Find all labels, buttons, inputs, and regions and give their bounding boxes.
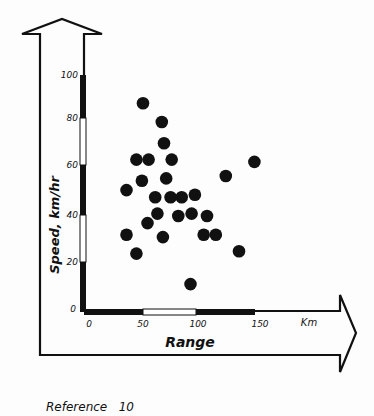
y-axis-bar — [80, 75, 86, 312]
chart-canvas: 100 80 60 40 20 0 0 50 100 150 Km Range … — [0, 0, 374, 416]
data-point — [160, 172, 173, 185]
y-tick-80: 80 — [67, 113, 79, 123]
data-point — [184, 278, 197, 291]
data-point — [142, 153, 155, 166]
y-tick-20: 20 — [67, 257, 79, 267]
y-tick-100: 100 — [61, 70, 78, 80]
data-point — [157, 231, 170, 244]
x-unit-label: Km — [301, 317, 318, 328]
scatter-chart: 100 80 60 40 20 0 0 50 100 150 Km Range … — [0, 0, 374, 416]
data-point — [164, 191, 177, 204]
data-point — [220, 170, 233, 183]
x-tick-0: 0 — [86, 319, 92, 329]
y-tick-0: 0 — [70, 304, 76, 314]
data-point — [120, 229, 133, 242]
data-point — [175, 191, 188, 204]
data-point — [197, 229, 210, 242]
x-tick-50: 50 — [137, 319, 149, 329]
x-axis-bar — [84, 309, 255, 315]
x-tick-100: 100 — [189, 319, 206, 329]
data-point — [248, 156, 261, 169]
data-point — [201, 210, 214, 223]
scatter-points — [120, 97, 260, 291]
data-point — [130, 247, 143, 260]
data-point — [149, 191, 162, 204]
y-tick-40: 40 — [67, 210, 79, 220]
data-point — [189, 189, 202, 202]
data-point — [141, 217, 154, 230]
data-point — [158, 137, 171, 150]
caption: Reference 10 — [46, 400, 134, 414]
data-point — [233, 245, 246, 258]
y-tick-labels: 100 80 60 40 20 0 — [61, 70, 78, 314]
data-point — [137, 97, 150, 110]
y-axis-title: Speed, km/hr — [47, 175, 62, 274]
data-point — [210, 229, 223, 242]
data-point — [156, 116, 169, 129]
data-point — [120, 184, 133, 197]
data-point — [151, 207, 164, 220]
x-tick-150: 150 — [251, 319, 268, 329]
y-tick-60: 60 — [67, 160, 79, 170]
data-point — [172, 210, 185, 223]
x-tick-labels: 0 50 100 150 Km — [86, 317, 317, 329]
data-point — [185, 207, 198, 220]
data-point — [165, 153, 178, 166]
data-point — [130, 153, 143, 166]
data-point — [136, 175, 149, 188]
x-axis-title: Range — [165, 334, 215, 350]
